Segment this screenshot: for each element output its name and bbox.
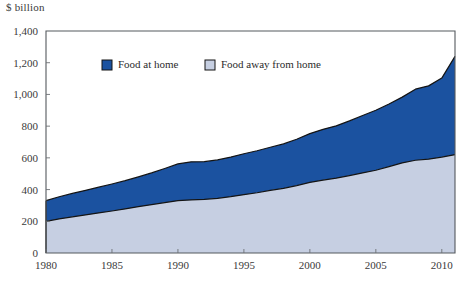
x-tick-label: 1980 <box>35 259 58 271</box>
x-tick-label: 2010 <box>431 259 454 271</box>
x-tick-label: 1985 <box>101 259 124 271</box>
y-tick-label: 0 <box>33 247 39 259</box>
y-tick-label: 600 <box>22 152 39 164</box>
x-tick-label: 1990 <box>167 259 190 271</box>
stacked-area-chart: $ billion 02004006008001,0001,2001,40019… <box>0 0 468 288</box>
legend-label: Food at home <box>118 58 179 70</box>
x-tick-label: 2005 <box>365 259 388 271</box>
x-tick-label: 1995 <box>233 259 256 271</box>
legend-swatch <box>205 60 215 70</box>
legend-swatch <box>102 60 112 70</box>
y-tick-label: 200 <box>22 215 39 227</box>
y-tick-label: 1,400 <box>13 25 38 37</box>
y-tick-label: 1,000 <box>13 88 38 100</box>
y-tick-label: 400 <box>22 184 39 196</box>
legend-label: Food away from home <box>221 58 321 70</box>
x-tick-label: 2000 <box>299 259 322 271</box>
chart-canvas: 02004006008001,0001,2001,400198019851990… <box>0 0 468 288</box>
y-tick-label: 1,200 <box>13 57 38 69</box>
y-tick-label: 800 <box>22 120 39 132</box>
plot-area: 02004006008001,0001,2001,400198019851990… <box>13 25 455 271</box>
